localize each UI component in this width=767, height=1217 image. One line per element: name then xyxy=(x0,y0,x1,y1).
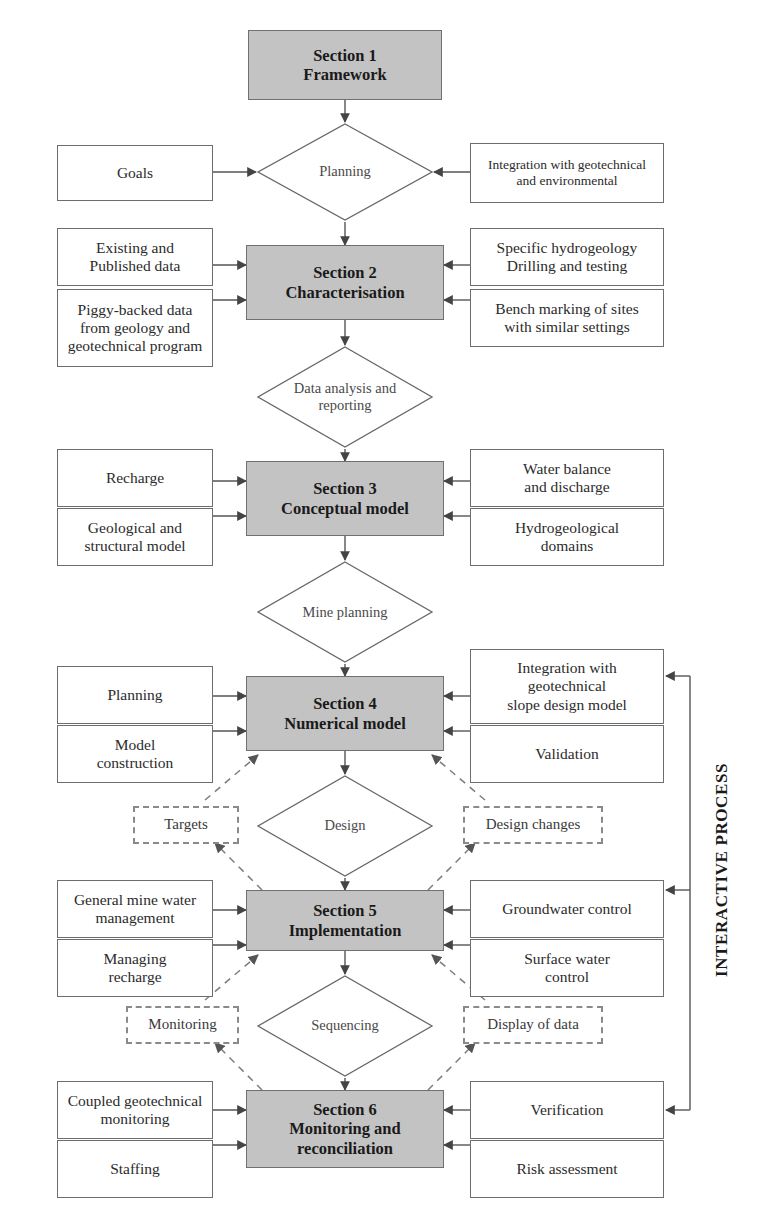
decision-label-design: Design xyxy=(285,804,405,848)
input-box-piggy-backed-data[interactable]: Piggy-backed data from geology and geote… xyxy=(57,289,213,367)
surface-water-line2: control xyxy=(475,968,659,986)
feedback-box-design-changes[interactable]: Design changes xyxy=(463,806,603,844)
input-box-water-balance[interactable]: Water balance and discharge xyxy=(470,449,664,507)
input-box-staffing[interactable]: Staffing xyxy=(57,1140,213,1198)
input-box-planning[interactable]: Planning xyxy=(57,666,213,724)
water-balance-line1: Water balance xyxy=(475,460,659,478)
input-box-groundwater-control[interactable]: Groundwater control xyxy=(470,880,664,938)
groundwater-control-line1: Groundwater control xyxy=(475,900,659,918)
coupled-monitoring-line2: monitoring xyxy=(62,1110,208,1128)
dashed-s6-to-displaydata xyxy=(428,1043,475,1090)
hydro-domains-line1: Hydrogeological xyxy=(475,519,659,537)
bench-marking-line1: Bench marking of sites xyxy=(475,300,659,318)
input-box-goals[interactable]: Goals xyxy=(57,145,213,201)
input-box-risk-assessment[interactable]: Risk assessment xyxy=(470,1140,664,1198)
input-box-verification[interactable]: Verification xyxy=(470,1081,664,1139)
input-box-specific-hydrogeology[interactable]: Specific hydrogeology Drilling and testi… xyxy=(470,228,664,286)
piggy-backed-line2: from geology and xyxy=(62,319,208,337)
existing-data-line2: Published data xyxy=(62,257,208,275)
design-changes-label: Design changes xyxy=(465,816,601,834)
planning-input-line1: Planning xyxy=(62,686,208,704)
targets-label: Targets xyxy=(135,816,237,834)
feedback-box-display-of-data[interactable]: Display of data xyxy=(463,1006,603,1044)
feedback-box-targets[interactable]: Targets xyxy=(133,806,239,844)
decision-label-sequencing: Sequencing xyxy=(278,1004,412,1048)
section-box-3[interactable]: Section 3 Conceptual model xyxy=(246,461,444,536)
integration-slope-line3: slope design model xyxy=(475,696,659,714)
input-box-bench-marking[interactable]: Bench marking of sites with similar sett… xyxy=(470,289,664,347)
interactive-process-caption: INTERACTIVE PROCESS xyxy=(700,640,744,1100)
input-box-integration-environmental[interactable]: Integration with geotechnical and enviro… xyxy=(470,143,664,203)
goals-line1: Goals xyxy=(62,164,208,182)
section5-number: Section 5 xyxy=(247,901,443,920)
recharge-line1: Recharge xyxy=(62,469,208,487)
dashed-s6-to-monitoring xyxy=(215,1043,262,1090)
decision-label-planning: Planning xyxy=(275,150,415,194)
interactive-process-text: INTERACTIVE PROCESS xyxy=(712,763,732,977)
dashed-s5-to-targets xyxy=(215,843,262,890)
piggy-backed-line3: geotechnical program xyxy=(62,337,208,355)
decision-label-data-analysis: Data analysis and reporting xyxy=(268,372,422,422)
coupled-monitoring-line1: Coupled geotechnical xyxy=(62,1092,208,1110)
piggy-backed-line1: Piggy-backed data xyxy=(62,301,208,319)
input-box-hydrogeological-domains[interactable]: Hydrogeological domains xyxy=(470,508,664,566)
existing-data-line1: Existing and xyxy=(62,239,208,257)
model-construction-line2: construction xyxy=(62,754,208,772)
hydro-domains-line2: domains xyxy=(475,537,659,555)
surface-water-line1: Surface water xyxy=(475,950,659,968)
section3-name: Conceptual model xyxy=(247,499,443,518)
input-box-coupled-monitoring[interactable]: Coupled geotechnical monitoring xyxy=(57,1081,213,1139)
section4-number: Section 4 xyxy=(247,694,443,713)
managing-recharge-line2: recharge xyxy=(62,968,208,986)
feedback-box-monitoring[interactable]: Monitoring xyxy=(126,1006,239,1044)
input-box-surface-water-control[interactable]: Surface water control xyxy=(470,939,664,997)
section1-number: Section 1 xyxy=(249,46,441,65)
input-box-model-construction[interactable]: Model construction xyxy=(57,725,213,783)
input-box-existing-data[interactable]: Existing and Published data xyxy=(57,228,213,286)
water-balance-line2: and discharge xyxy=(475,478,659,496)
monitoring-label: Monitoring xyxy=(128,1016,237,1034)
mine-planning-label-line2: planning xyxy=(337,604,388,620)
section-box-4[interactable]: Section 4 Numerical model xyxy=(246,676,444,751)
section-box-6[interactable]: Section 6 Monitoring and reconciliation xyxy=(246,1090,444,1168)
planning-label-line1: Planning xyxy=(319,163,371,179)
section-box-2[interactable]: Section 2 Characterisation xyxy=(246,245,444,320)
section-box-1[interactable]: Section 1 Framework xyxy=(248,30,442,100)
geological-model-line1: Geological and xyxy=(62,519,208,537)
input-box-integration-slope-design[interactable]: Integration with geotechnical slope desi… xyxy=(470,649,664,724)
section2-name: Characterisation xyxy=(247,283,443,302)
model-construction-line1: Model xyxy=(62,736,208,754)
section6-number: Section 6 xyxy=(247,1100,443,1119)
dashed-s5-to-designchanges xyxy=(428,843,475,890)
input-box-geological-model[interactable]: Geological and structural model xyxy=(57,508,213,566)
flowchart-diagram: Section 1 Framework Section 2 Characteri… xyxy=(0,0,767,1217)
input-box-general-mine-water[interactable]: General mine water management xyxy=(57,880,213,938)
geological-model-line2: structural model xyxy=(62,537,208,555)
integration-env-line1: Integration with geotechnical xyxy=(475,157,659,173)
decision-label-mine-planning: Mine planning xyxy=(285,588,405,638)
input-box-validation[interactable]: Validation xyxy=(470,725,664,783)
section1-name: Framework xyxy=(249,65,441,84)
section4-name: Numerical model xyxy=(247,714,443,733)
mine-water-line1: General mine water xyxy=(62,891,208,909)
section6-name-line2: reconciliation xyxy=(247,1139,443,1158)
sequencing-label-line1: Sequencing xyxy=(311,1017,379,1033)
design-label-line1: Design xyxy=(324,817,365,833)
verification-line1: Verification xyxy=(475,1101,659,1119)
integration-env-line2: and environmental xyxy=(475,173,659,189)
section3-number: Section 3 xyxy=(247,479,443,498)
input-box-managing-recharge[interactable]: Managing recharge xyxy=(57,939,213,997)
input-box-recharge[interactable]: Recharge xyxy=(57,449,213,507)
section-box-5[interactable]: Section 5 Implementation xyxy=(246,890,444,951)
section5-name: Implementation xyxy=(247,921,443,940)
section2-number: Section 2 xyxy=(247,263,443,282)
integration-slope-line2: geotechnical xyxy=(475,677,659,695)
specific-hydro-line1: Specific hydrogeology xyxy=(475,239,659,257)
risk-assessment-line1: Risk assessment xyxy=(475,1160,659,1178)
validation-line1: Validation xyxy=(475,745,659,763)
staffing-line1: Staffing xyxy=(62,1160,208,1178)
bench-marking-line2: with similar settings xyxy=(475,318,659,336)
integration-slope-line1: Integration with xyxy=(475,659,659,677)
data-analysis-label-line1: Data analysis xyxy=(294,380,372,396)
mine-water-line2: management xyxy=(62,909,208,927)
